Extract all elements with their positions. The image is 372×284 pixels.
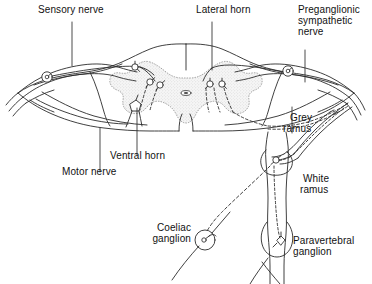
label-grey-ramus-line1: Grey xyxy=(290,112,312,124)
label-sensory-nerve: Sensory nerve xyxy=(38,4,104,16)
label-coeliac-ganglion-line1: Coeliac xyxy=(113,222,191,234)
central-canal xyxy=(181,91,191,96)
sympathetic-chain xyxy=(266,132,289,284)
label-ventral-horn: Ventral horn xyxy=(110,150,165,162)
label-motor-nerve: Motor nerve xyxy=(62,166,116,178)
label-paravertebral-ganglion-line2: ganglion xyxy=(293,246,332,258)
label-preganglionic-sympathetic-nerve-line1: Preganglionic xyxy=(298,4,360,16)
splanchnic-dashed-fiber xyxy=(207,166,270,231)
dorsal-root-ganglion-right xyxy=(283,66,293,76)
label-white-ramus-line2: ramus xyxy=(300,184,328,196)
figure-canvas: Sensory nerve Lateral horn Preganglionic… xyxy=(0,0,372,284)
label-grey-ramus-line2: ramus xyxy=(283,123,311,135)
label-coeliac-ganglion-line2: ganglion xyxy=(113,233,191,245)
preganglionic-descending-dashed xyxy=(274,166,280,238)
dorsal-root-ganglion-left xyxy=(42,72,52,82)
label-white-ramus-line1: White xyxy=(303,173,329,185)
label-lateral-horn: Lateral horn xyxy=(196,4,251,16)
label-preganglionic-sympathetic-nerve-line2: sympathetic xyxy=(298,15,352,27)
label-paravertebral-ganglion-line1: Paravertebral xyxy=(293,235,354,247)
label-preganglionic-sympathetic-nerve-line3: nerve xyxy=(298,26,324,38)
